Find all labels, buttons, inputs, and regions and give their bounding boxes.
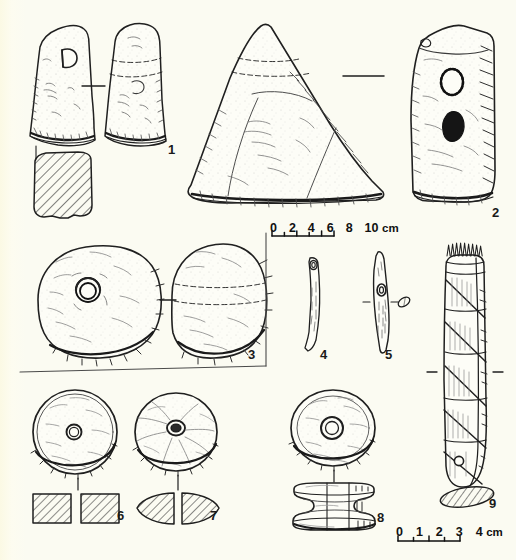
artefact-spindle-whorl-flat [31, 390, 119, 523]
scale4-unit-cm: cm [486, 526, 503, 538]
plate-artwork [0, 0, 516, 560]
scale4-tick-3: 3 [456, 525, 463, 539]
scale-bar-10cm: 0 2 4 6 8 10 cm [270, 222, 399, 235]
figure-number-4: 4 [320, 348, 327, 361]
scale-tick-10: 10 [365, 221, 379, 235]
scale-tick-2: 2 [289, 221, 296, 235]
artefact-plate: 1 2 3 4 5 6 7 8 9 0 2 4 6 8 10 cm 0 1 2 [0, 0, 516, 560]
scale4-tick-1: 1 [416, 525, 423, 539]
scale-bar-4cm: 0 1 2 3 4 cm [396, 526, 503, 539]
artefact-spindle-whorl-biconical [133, 393, 219, 524]
figure-number-1: 1 [168, 143, 175, 156]
artefact-spool-whorl-grooved [289, 390, 375, 530]
scale4-tick-4: 4 [476, 525, 483, 539]
scale4-tick-2: 2 [436, 525, 443, 539]
artefact-bone-comb-weaving-tool [427, 243, 503, 511]
figure-number-6: 6 [117, 509, 124, 522]
scale-unit-cm: cm [382, 222, 399, 234]
scale-bar-4cm-labels: 0 1 2 3 4 cm [396, 526, 503, 539]
scale4-tick-0: 0 [396, 525, 403, 539]
scale-tick-8: 8 [346, 221, 353, 235]
figure-number-9: 9 [489, 497, 496, 510]
scale-tick-6: 6 [327, 221, 334, 235]
scale-bar-10cm-labels: 0 2 4 6 8 10 cm [270, 222, 399, 235]
artefact-stone-adze-section [34, 146, 92, 218]
figure-number-5: 5 [385, 348, 392, 361]
figure-number-8: 8 [377, 511, 384, 524]
artefact-perforated-stone-slab [411, 25, 495, 205]
artefact-bone-needle-long [305, 258, 320, 351]
artefact-stone-adze-side [105, 24, 166, 146]
artefact-perforated-stone-disc-profile [172, 244, 273, 365]
figure-number-7: 7 [210, 509, 217, 522]
scale-tick-4: 4 [308, 221, 315, 235]
figure-number-3: 3 [248, 348, 255, 361]
artefact-triangular-grinding-stone [188, 25, 384, 207]
figure-number-2: 2 [492, 206, 499, 219]
artefact-bone-needle-eyed [363, 252, 412, 353]
artefact-perforated-stone-disc-face [38, 246, 164, 366]
scale-tick-0: 0 [270, 221, 277, 235]
